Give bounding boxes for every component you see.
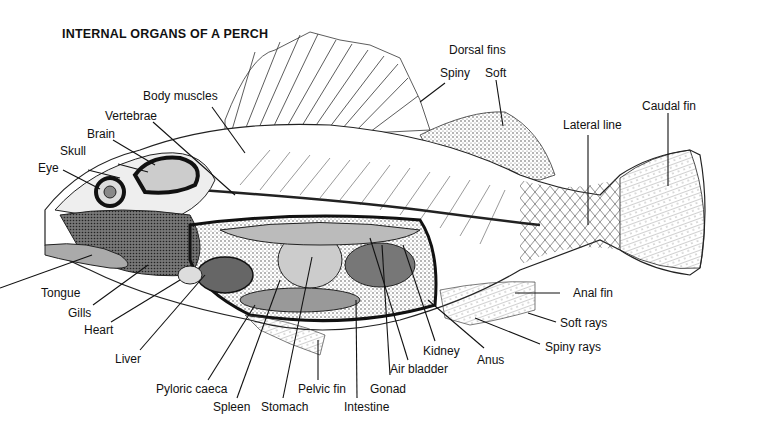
label-eye: Eye — [38, 162, 59, 174]
label-caudal-fin: Caudal fin — [642, 100, 696, 112]
spiny-dorsal-fin — [225, 32, 430, 140]
intestine — [240, 288, 360, 312]
label-pelvic-fin: Pelvic fin — [298, 383, 346, 395]
label-anus: Anus — [477, 354, 504, 366]
caudal-peduncle-scales — [520, 178, 620, 265]
label-vertebrae: Vertebrae — [105, 110, 157, 122]
label-stomach: Stomach — [261, 401, 308, 413]
label-intestine: Intestine — [344, 401, 389, 413]
label-spleen: Spleen — [213, 401, 250, 413]
perch-diagram: INTERNAL ORGANS OF A PERCH Dorsal fins S… — [0, 0, 763, 431]
label-gonad: Gonad — [370, 383, 406, 395]
label-skull: Skull — [60, 145, 86, 157]
label-soft: Soft — [485, 67, 506, 79]
label-dorsal-fins: Dorsal fins — [449, 44, 506, 56]
label-spiny: Spiny — [440, 67, 470, 79]
label-air-bladder: Air bladder — [390, 363, 448, 375]
label-tongue: Tongue — [41, 287, 80, 299]
label-brain: Brain — [87, 128, 115, 140]
label-heart: Heart — [84, 324, 113, 336]
label-gills: Gills — [68, 307, 91, 319]
label-soft-rays: Soft rays — [560, 317, 607, 329]
perch-illustration — [0, 0, 763, 431]
label-liver: Liver — [115, 353, 141, 365]
label-kidney: Kidney — [423, 345, 460, 357]
diagram-title: INTERNAL ORGANS OF A PERCH — [62, 27, 268, 41]
label-lateral-line: Lateral line — [563, 119, 622, 131]
label-body-muscles: Body muscles — [143, 90, 218, 102]
heart — [178, 266, 202, 284]
liver — [197, 257, 253, 293]
label-anal-fin: Anal fin — [573, 287, 613, 299]
label-spiny-rays: Spiny rays — [545, 341, 601, 353]
anal-fin — [440, 282, 535, 325]
label-pyloric-caeca: Pyloric caeca — [156, 383, 227, 395]
